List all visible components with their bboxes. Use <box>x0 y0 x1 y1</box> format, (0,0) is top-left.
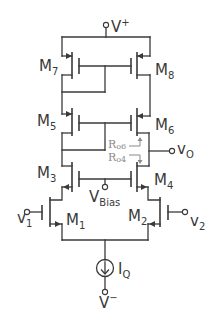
m6-label: M6 <box>155 116 174 136</box>
transistor-m7: M7 <box>39 37 79 79</box>
vbias-node: VBias <box>79 179 131 208</box>
output-label: vO <box>177 140 194 160</box>
m2-label: M2 <box>128 207 147 227</box>
m8-label: M8 <box>155 61 174 81</box>
iq-label: IQ <box>118 260 130 280</box>
m7-source-arrow <box>66 53 72 59</box>
ro4-arrow-icon <box>138 160 143 164</box>
m3-source-arrow <box>63 184 69 190</box>
input-v1: v1 <box>17 209 32 229</box>
m1-source-arrow <box>55 221 61 227</box>
vbias-terminal[interactable] <box>102 184 107 189</box>
circuit-schematic: V+ M7 M8 M5 <box>0 0 209 328</box>
vbias-label: VBias <box>89 188 120 208</box>
output-terminal[interactable] <box>169 148 174 153</box>
m3-label: M3 <box>37 164 56 184</box>
m6-source-arrow <box>137 113 143 119</box>
ro6-arrow-icon <box>138 137 143 141</box>
ro6-label: Ro6 <box>108 138 126 151</box>
output-node: vO <box>149 140 194 160</box>
v2-terminal[interactable] <box>182 209 187 214</box>
transistor-m3: M3 <box>37 162 79 192</box>
transistor-m2: M2 <box>128 197 182 240</box>
m4-label: M4 <box>154 171 173 191</box>
m7-label: M7 <box>39 57 58 77</box>
left-wire-m3-m1 <box>50 187 62 200</box>
transistor-m1: M1 <box>30 197 85 240</box>
m1-label: M1 <box>66 211 85 231</box>
vminus-label: V− <box>99 292 118 312</box>
m5-source-arrow <box>66 111 72 117</box>
transistor-m8: M8 <box>131 37 174 81</box>
m2-source-arrow <box>149 221 155 227</box>
positive-supply: V+ <box>103 17 129 37</box>
m5-label: M5 <box>37 112 56 132</box>
vplus-terminal <box>103 22 108 27</box>
transistor-m4: M4 <box>131 162 173 192</box>
vplus-label: V+ <box>111 17 130 36</box>
transistor-m5: M5 <box>37 108 79 136</box>
transistor-m6: M6 <box>131 108 174 136</box>
ro6-annotation: Ro6 <box>108 137 143 151</box>
input-v2: v2 <box>182 209 205 232</box>
ro4-label: Ro4 <box>108 151 126 164</box>
m8-source-arrow <box>137 53 143 59</box>
v2-label: v2 <box>190 212 205 232</box>
negative-supply: V− <box>99 277 118 313</box>
m4-source-arrow <box>141 184 147 190</box>
current-source: IQ <box>97 260 131 281</box>
